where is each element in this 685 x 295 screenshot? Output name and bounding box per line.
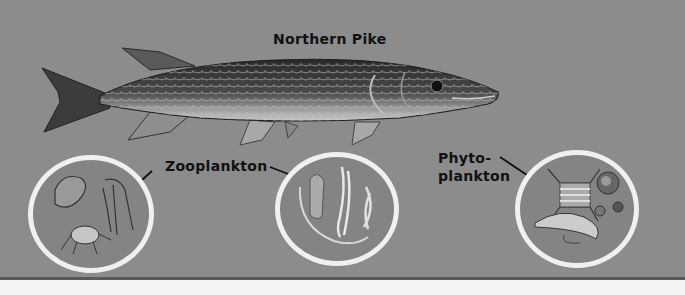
phytoplankton-circle: [515, 150, 639, 268]
zooplankton-label: Zooplankton: [165, 158, 268, 175]
copepod-icon: [33, 160, 149, 268]
jellyfish-icon: [280, 157, 394, 261]
diatom-icon: [520, 155, 634, 263]
phytoplankton-label-line1: Phyto-: [438, 150, 491, 167]
illustration-panel: Northern Pike Zooplankton Phyto- plankto…: [0, 0, 685, 280]
fish-label: Northern Pike: [273, 31, 387, 48]
zooplankton-circle-middle: [275, 152, 399, 266]
phytoplankton-label-line2: plankton: [438, 168, 510, 185]
zooplankton-circle-left: [28, 155, 154, 273]
